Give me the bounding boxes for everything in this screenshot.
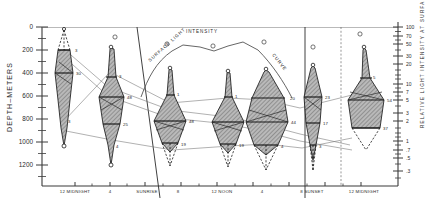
right-tick-50: 50: [406, 41, 412, 47]
x-tick-8am: 8: [177, 189, 180, 194]
x-tick-12-midnight-start: 12 MIDNIGHT: [60, 189, 91, 194]
x-tick-4pm: 4: [261, 189, 264, 194]
violin5-value-2: 44: [291, 120, 296, 125]
x-tick-sunrise: SUNRISE: [136, 189, 157, 194]
x-tick-12-midnight-end: 12 MIDNIGHT: [349, 189, 380, 194]
scattering-layer-chart: 0 200 400 600 800 1000 1200 DEPTH–METERS: [0, 0, 437, 207]
intensity-label: INTENSITY: [186, 29, 218, 34]
left-axis-title: DEPTH–METERS: [6, 62, 13, 132]
right-tick-2: 2: [406, 118, 409, 124]
violin5-value-1: 20: [290, 96, 295, 101]
right-tick-3: 3: [406, 110, 409, 116]
left-tick-1200: 1200: [19, 161, 34, 168]
right-tick-7: 7: [406, 89, 409, 95]
x-tick-8pm-sunset: 8 SUNSET: [300, 189, 324, 194]
right-tick-10: 10: [406, 81, 412, 87]
right-tick-30: 30: [406, 53, 412, 59]
right-tick-20: 20: [406, 61, 412, 67]
x-tick-4am: 4: [109, 189, 112, 194]
right-tick-5: 5: [406, 97, 409, 103]
violin4-value-3: 19: [239, 143, 244, 148]
right-tick-0-5: .5: [406, 155, 410, 161]
violin7-value-3: 37: [383, 126, 388, 131]
right-tick-0-3: .3: [406, 168, 410, 174]
violin1-value-mid: 30: [76, 71, 81, 76]
left-tick-200: 200: [22, 46, 33, 53]
left-tick-400: 400: [22, 69, 33, 76]
violin6-value-1: 23: [325, 95, 330, 100]
violin3-value-3: 19: [181, 142, 186, 147]
right-tick-70: 70: [406, 33, 412, 39]
left-tick-800: 800: [22, 115, 33, 122]
left-tick-1000: 1000: [19, 138, 34, 145]
violin3-value-2: 48: [189, 119, 194, 124]
left-tick-600: 600: [22, 92, 33, 99]
right-tick-100: 100: [406, 24, 415, 30]
x-tick-12-noon: 12 NOON: [211, 189, 232, 194]
right-tick-0-7: .7: [406, 147, 410, 153]
left-tick-0: 0: [29, 23, 33, 30]
figure-container: 0 200 400 600 800 1000 1200 DEPTH–METERS: [0, 0, 437, 207]
violin2-value-3: 25: [123, 122, 128, 127]
violin6-value-2: 17: [323, 121, 328, 126]
violin7-value-2: 54: [387, 98, 392, 103]
right-axis-title: RELATIVE LIGHT INTENSITY AT SURFACE: [420, 0, 425, 128]
violin2-value-2: 48: [127, 95, 132, 100]
right-tick-1: 1: [406, 138, 409, 144]
